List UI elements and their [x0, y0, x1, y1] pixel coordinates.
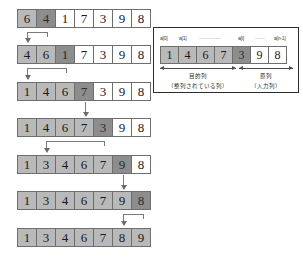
array-cell: 1 [17, 191, 37, 210]
array-cell: 6 [74, 191, 94, 210]
index-label-ai: a[i] [238, 35, 244, 41]
span-arrow-target [160, 68, 236, 69]
array-cell: 8 [131, 82, 151, 101]
array-row-1: 6 4 1 7 3 9 8 [17, 9, 150, 28]
array-cell: 6 [17, 9, 37, 28]
array-cell: 9 [131, 228, 151, 247]
array-cell-key: 3 [232, 46, 251, 64]
array-cell: 1 [55, 9, 75, 28]
array-cell: 9 [112, 191, 132, 210]
array-row-6: 1 3 4 6 7 9 8 [17, 191, 150, 210]
array-cell: 9 [112, 9, 132, 28]
caption-target-sequence: 目的列 [160, 72, 236, 80]
array-cell: 7 [74, 118, 94, 137]
array-cell: 7 [93, 191, 113, 210]
array-cell: 4 [55, 228, 75, 247]
array-cell-key: 3 [93, 118, 113, 137]
array-cell: 4 [36, 118, 56, 137]
index-label-a0: a[0] [160, 35, 168, 41]
subcaption-input-portion: （入力列） [236, 82, 296, 90]
subcaption-sorted-portion: （整列されている列） [154, 82, 242, 90]
array-cell: 3 [36, 191, 56, 210]
diagram-canvas: 6 4 1 7 3 9 8 4 6 1 7 3 9 8 1 4 6 7 3 9 [0, 0, 303, 265]
array-cell: 4 [178, 46, 197, 64]
array-cell: 4 [55, 191, 75, 210]
array-cell: 8 [131, 118, 151, 137]
array-cell: 8 [131, 45, 151, 64]
array-cell: 1 [17, 155, 37, 174]
array-row-2: 4 6 1 7 3 9 8 [17, 45, 150, 64]
array-cell: 8 [131, 155, 151, 174]
array-cell: 9 [112, 82, 132, 101]
array-row-7-final: 1 3 4 6 7 8 9 [17, 228, 150, 247]
ellipsis-left: ················ [199, 35, 221, 41]
index-label-an1: a[n-1] [274, 35, 286, 41]
array-cell: 1 [17, 82, 37, 101]
array-cell-key: 9 [112, 155, 132, 174]
array-cell: 6 [74, 155, 94, 174]
array-cell: 7 [214, 46, 233, 64]
array-cell: 9 [250, 46, 269, 64]
caption-original-sequence: 原列 [239, 72, 293, 80]
array-cell-key: 4 [36, 9, 56, 28]
array-cell: 3 [93, 45, 113, 64]
array-cell: 4 [55, 155, 75, 174]
legend-panel: a[0] a[1] ················ a[i] ······· … [153, 27, 299, 93]
array-cell: 3 [36, 228, 56, 247]
elbow-arrow-connector [20, 64, 76, 82]
array-cell: 9 [112, 45, 132, 64]
span-arrow-input [239, 68, 293, 69]
array-row-3: 1 4 6 7 3 9 8 [17, 82, 150, 101]
array-cell: 3 [93, 82, 113, 101]
array-cell: 8 [268, 46, 287, 64]
elbow-arrow-connector [20, 28, 56, 44]
index-label-a1: a[1] [179, 35, 187, 41]
array-cell: 6 [36, 45, 56, 64]
array-cell: 1 [160, 46, 179, 64]
array-cell: 7 [93, 228, 113, 247]
array-cell: 6 [55, 82, 75, 101]
array-cell-key: 1 [55, 45, 75, 64]
ellipsis-right: ······· [255, 35, 265, 41]
array-cell: 8 [131, 9, 151, 28]
array-cell: 6 [196, 46, 215, 64]
array-cell: 1 [17, 228, 37, 247]
down-arrow-connector [79, 101, 93, 118]
array-cell: 8 [112, 228, 132, 247]
array-row-5: 1 3 4 6 7 9 8 [17, 155, 150, 174]
array-cell: 4 [36, 82, 56, 101]
array-cell: 9 [112, 118, 132, 137]
array-cell: 7 [93, 155, 113, 174]
array-cell: 1 [17, 118, 37, 137]
array-cell: 4 [17, 45, 37, 64]
array-cell: 6 [55, 118, 75, 137]
array-cell: 7 [74, 45, 94, 64]
elbow-arrow-connector [116, 210, 152, 228]
elbow-arrow-connector [39, 137, 113, 155]
legend-array-row: 1 4 6 7 3 9 8 [160, 46, 286, 64]
array-row-4: 1 4 6 7 3 9 8 [17, 118, 150, 137]
array-cell: 7 [74, 9, 94, 28]
array-cell-key: 8 [131, 191, 151, 210]
array-cell: 6 [74, 228, 94, 247]
array-cell: 3 [36, 155, 56, 174]
array-cell: 3 [93, 9, 113, 28]
down-arrow-connector [117, 174, 131, 191]
array-cell-key: 7 [74, 82, 94, 101]
